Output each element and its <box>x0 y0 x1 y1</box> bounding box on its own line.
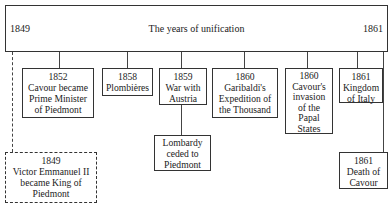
event-year: 1861 <box>340 155 387 166</box>
event-text: Prime Minister <box>23 93 93 104</box>
event-text: Austria <box>160 93 206 104</box>
event-box-1861-kingdom: 1861 Kingdom of Italy <box>339 68 383 103</box>
event-year: 1860 <box>213 71 277 82</box>
connector-cavour-invasion <box>307 52 308 68</box>
connector-kingdom <box>357 52 358 68</box>
event-box-lombardy: Lombardy ceded to Piedmont <box>154 135 211 171</box>
connector-1859 <box>181 52 182 68</box>
event-text: Piedmont <box>6 188 96 199</box>
event-text: Victor Emmanuel II <box>6 166 96 177</box>
event-text: Lombardy <box>155 137 210 148</box>
event-text: Death of <box>340 166 387 177</box>
event-text: Garibaldi's <box>213 82 277 93</box>
event-box-1860-cavour-invasion: 1860 Cavour's invasion of the Papal Stat… <box>285 68 333 134</box>
event-text: Cavour became <box>23 82 93 93</box>
event-text: Expedition of <box>213 93 277 104</box>
event-box-1858: 1858 Plombières <box>102 68 153 96</box>
event-box-1861-death-cavour: 1861 Death of Cavour <box>339 152 388 189</box>
event-year: 1860 <box>286 71 332 82</box>
connector-1858 <box>127 52 128 68</box>
event-text: War with <box>160 82 206 93</box>
event-text: Plombières <box>103 82 152 93</box>
event-year: 1852 <box>23 71 93 82</box>
connector-garibaldi <box>244 52 245 68</box>
timeline-header: 1849 The years of unification 1861 <box>5 5 388 52</box>
event-text: of Piedmont <box>23 104 93 115</box>
end-year: 1861 <box>363 23 383 34</box>
dashed-connector-1849 <box>12 52 13 152</box>
event-year: 1861 <box>340 71 382 82</box>
event-box-1860-garibaldi: 1860 Garibaldi's Expedition of the Thous… <box>212 68 278 118</box>
event-box-1849-dashed: 1849 Victor Emmanuel II became King of P… <box>5 152 97 203</box>
event-year: 1859 <box>160 71 206 82</box>
event-text: Kingdom <box>340 82 382 93</box>
event-year: 1849 <box>6 155 96 166</box>
timeline-title: The years of unification <box>6 23 387 34</box>
event-box-1859: 1859 War with Austria <box>159 68 207 105</box>
event-text: Piedmont <box>155 159 210 170</box>
event-text: became King of <box>6 177 96 188</box>
event-year: 1858 <box>103 71 152 82</box>
event-box-1852: 1852 Cavour became Prime Minister of Pie… <box>22 68 94 118</box>
connector-1852 <box>59 52 60 68</box>
event-text: States <box>286 124 332 135</box>
connector-death-cavour <box>383 52 384 152</box>
event-text: the Thousand <box>213 104 277 115</box>
event-text: ceded to <box>155 148 210 159</box>
connector-lombardy <box>181 105 182 135</box>
event-text: Cavour <box>340 177 387 188</box>
event-text: of Italy <box>340 93 382 104</box>
